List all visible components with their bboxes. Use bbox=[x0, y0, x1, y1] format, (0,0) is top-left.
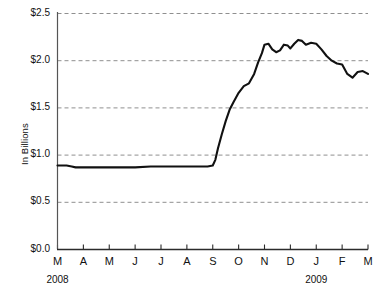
y-axis-tick-label: $2.5 bbox=[16, 7, 50, 18]
x-axis-tick-label: S bbox=[202, 255, 224, 267]
data-line-series bbox=[58, 40, 369, 167]
x-axis-tick-label: M bbox=[357, 255, 379, 267]
x-axis-tick-label: N bbox=[254, 255, 276, 267]
x-axis-tick-label: O bbox=[228, 255, 250, 267]
line-chart: In Billions $0.0$0.5$1.0$1.5$2.0$2.5 MAM… bbox=[0, 0, 382, 300]
y-axis-tick-label: $1.0 bbox=[16, 148, 50, 159]
gridlines bbox=[58, 14, 369, 203]
y-axis-tick-label: $1.5 bbox=[16, 101, 50, 112]
y-axis-tick-label: $0.0 bbox=[16, 243, 50, 254]
x-axis-tick-label: A bbox=[72, 255, 94, 267]
x-axis-tick-label: M bbox=[47, 255, 69, 267]
x-axis-ticks bbox=[58, 245, 369, 250]
x-axis-tick-label: J bbox=[124, 255, 146, 267]
x-axis-tick-label: D bbox=[279, 255, 301, 267]
y-axis-tick-label: $0.5 bbox=[16, 195, 50, 206]
x-axis-tick-label: J bbox=[305, 255, 327, 267]
x-axis-tick-label: M bbox=[98, 255, 120, 267]
x-axis-year-label: 2008 bbox=[41, 274, 75, 285]
x-axis-year-label: 2009 bbox=[299, 274, 333, 285]
x-axis-tick-label: J bbox=[150, 255, 172, 267]
x-axis-tick-label: A bbox=[176, 255, 198, 267]
x-axis-tick-label: F bbox=[331, 255, 353, 267]
y-axis-tick-label: $2.0 bbox=[16, 54, 50, 65]
